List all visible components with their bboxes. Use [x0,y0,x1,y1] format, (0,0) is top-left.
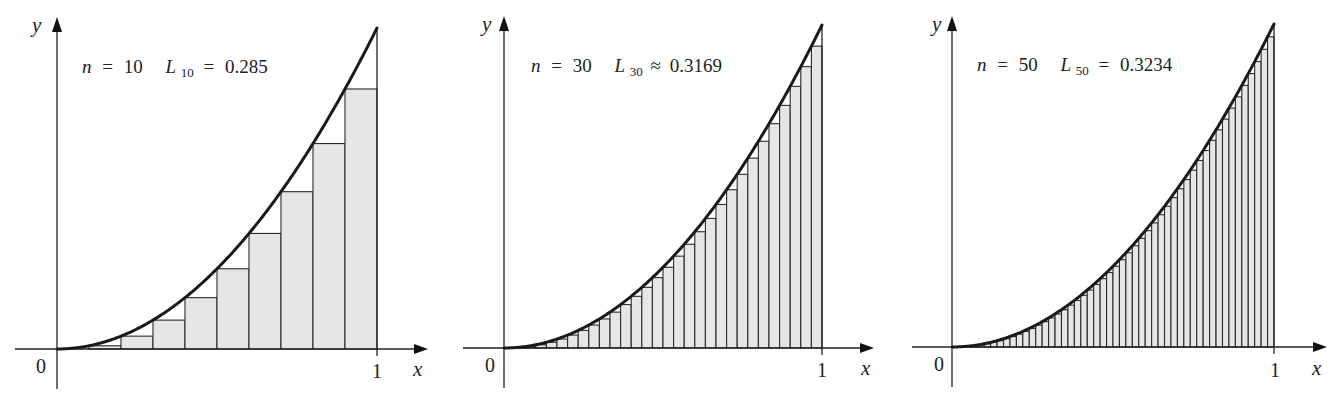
riemann-rectangle [1229,108,1235,347]
left-rectangles [89,89,377,349]
annotation: n = 10 L 10 = 0.285 [82,56,268,81]
relation-sign: = [204,56,215,77]
n-value: 10 [124,56,143,77]
riemann-rectangle [1087,290,1093,347]
y-axis-label: y [480,12,492,36]
n-value: 30 [573,55,592,76]
riemann-rectangle [737,174,748,348]
riemann-rectangle [1235,97,1241,347]
riemann-rectangle [185,298,217,349]
riemann-rectangle [758,141,769,348]
riemann-rectangle [674,256,685,348]
annotation: n = 50 L 50 = 0.3234 [977,54,1173,79]
riemann-rectangle [1184,180,1190,347]
L-subscript: 50 [1076,63,1089,78]
origin-label: 0 [934,353,944,375]
origin-label: 0 [485,354,495,376]
n-value: 50 [1019,54,1038,75]
x-one-label: 1 [372,360,382,382]
riemann-rectangle [1036,325,1042,347]
riemann-rectangle [1081,295,1087,347]
y-axis-label: y [30,13,42,37]
L-symbol: L [1059,54,1071,75]
x-one-label: 1 [1270,359,1280,381]
riemann-rectangle [1190,170,1196,347]
L-value: 0.3234 [1120,54,1173,75]
riemann-rectangle [557,339,568,348]
riemann-rectangle [1197,160,1203,347]
x-axis-label: x [1311,356,1322,380]
riemann-rectangle [1139,238,1145,347]
riemann-rectangle [684,244,695,348]
riemann-rectangle [1132,246,1138,347]
y-axis-arrow-icon [499,16,509,31]
riemann-rectangle [705,218,716,348]
riemann-rectangle [1165,206,1171,347]
left-rectangles [515,46,822,348]
L-value: 0.285 [225,56,268,77]
L-subscript: 30 [630,64,643,79]
annotation: n = 30 L 30 ≈ 0.3169 [531,55,722,80]
riemann-rectangle [652,278,663,348]
riemann-rectangle [1255,62,1261,347]
panel-n30: y x 0 1 n = 30 L 30 ≈ 0.3169 [463,12,874,388]
x-one-label: 1 [817,359,827,381]
L-subscript: 10 [181,65,194,80]
x-axis-label: x [860,356,871,380]
riemann-rectangle [578,330,589,348]
relation-sign: ≈ [651,55,661,76]
y-axis-label: y [930,12,942,36]
riemann-rectangle [249,233,281,349]
riemann-rectangle [610,312,621,348]
n-symbol: n [531,55,541,76]
riemann-rectangle [589,325,600,348]
riemann-rectangle [1216,130,1222,347]
riemann-rectangle [568,335,579,348]
riemann-rectangle [1042,322,1048,347]
riemann-sum-figure: y x 0 1 n = 10 L 10 = 0.285 y x 0 1 n = … [0,0,1341,402]
riemann-rectangle [1210,140,1216,347]
riemann-rectangle [1268,37,1274,347]
riemann-rectangle [1074,300,1080,347]
riemann-rectangle [599,319,610,348]
x-axis-label: x [412,357,423,381]
origin-label: 0 [36,355,46,377]
riemann-rectangle [1113,266,1119,347]
riemann-rectangle [1023,331,1029,347]
riemann-rectangle [313,144,345,349]
riemann-rectangle [1248,74,1254,347]
riemann-rectangle [153,320,185,349]
riemann-rectangle [1061,310,1067,347]
n-symbol: n [82,56,92,77]
riemann-rectangle [1222,119,1228,347]
riemann-rectangle [1049,318,1055,347]
riemann-rectangle [1107,273,1113,347]
riemann-rectangle [621,305,632,348]
riemann-rectangle [345,89,377,349]
x-axis-arrow-icon [1313,342,1327,352]
equals-sign: = [997,54,1008,75]
riemann-rectangle [727,190,738,348]
riemann-rectangle [1094,284,1100,347]
riemann-rectangle [1145,231,1151,347]
riemann-rectangle [1010,337,1016,347]
riemann-rectangle [716,204,727,348]
riemann-rectangle [790,86,801,348]
x-axis-arrow-icon [414,344,428,354]
riemann-rectangle [121,336,153,349]
riemann-rectangle [1119,260,1125,347]
relation-sign: = [1099,54,1110,75]
riemann-rectangle [1055,314,1061,347]
riemann-rectangle [748,158,759,348]
n-symbol: n [977,54,987,75]
equals-sign: = [551,55,562,76]
left-rectangles [958,37,1274,347]
riemann-rectangle [1068,305,1074,347]
riemann-rectangle [1158,215,1164,347]
y-axis-arrow-icon [947,16,957,31]
equals-sign: = [102,56,113,77]
riemann-rectangle [1029,328,1035,347]
L-symbol: L [164,56,176,77]
riemann-rectangle [631,296,642,348]
riemann-rectangle [801,67,812,348]
